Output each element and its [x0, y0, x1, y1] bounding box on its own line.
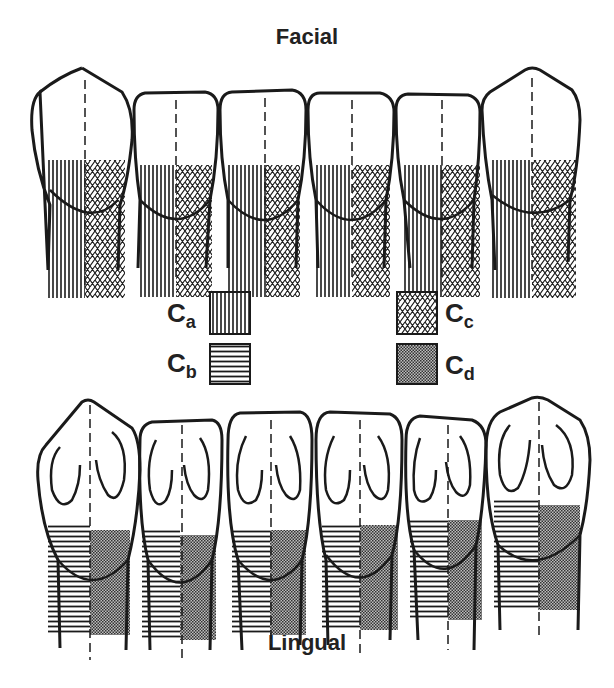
legend-swatch-ca — [210, 292, 250, 334]
lingual-tooth-6 — [486, 397, 590, 635]
legend-swatches — [210, 292, 437, 384]
legend-swatch-cd — [397, 344, 437, 384]
legend-label-ca: Ca — [167, 298, 196, 333]
facial-tooth-4 — [308, 93, 394, 297]
facial-tooth-2 — [134, 92, 218, 297]
legend-swatch-cc — [397, 292, 437, 334]
facial-tooth-6 — [482, 68, 580, 298]
lingual-row — [38, 397, 590, 660]
legend-label-cb: Cb — [167, 348, 197, 383]
facial-tooth-3 — [220, 90, 306, 297]
teeth-diagram — [0, 0, 614, 688]
legend-label-cc: Cc — [445, 298, 474, 333]
legend-label-cd: Cd — [445, 350, 475, 385]
facial-tooth-1 — [32, 68, 133, 298]
lingual-tooth-3 — [228, 412, 312, 650]
lingual-tooth-2 — [140, 420, 222, 660]
facial-tooth-5 — [396, 94, 480, 297]
lingual-tooth-1 — [38, 400, 140, 660]
facial-row — [32, 68, 580, 298]
legend-swatch-cb — [210, 344, 250, 384]
lingual-tooth-5 — [406, 416, 486, 650]
lingual-tooth-4 — [316, 412, 402, 655]
